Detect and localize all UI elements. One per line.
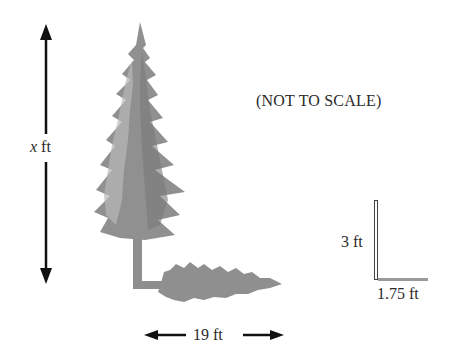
shadow-length-label: 19 ft	[193, 326, 223, 344]
tree-shadow-icon	[133, 262, 282, 302]
pole-height-label: 3 ft	[341, 233, 363, 251]
not-to-scale-note: (NOT TO SCALE)	[256, 92, 381, 110]
pole-shadow-icon	[378, 278, 428, 281]
pole-shadow-label: 1.75 ft	[377, 285, 419, 303]
tree-height-label: x ft	[30, 138, 51, 156]
pole-icon	[375, 201, 378, 280]
height-unit: ft	[37, 138, 51, 155]
tree-icon	[94, 22, 185, 287]
